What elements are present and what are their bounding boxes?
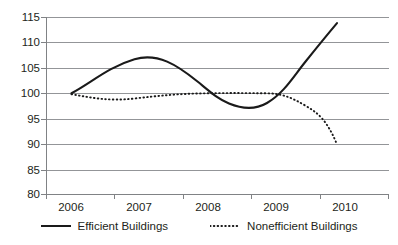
y-tick-label: 100 — [4, 88, 40, 100]
x-tick-label: 2007 — [109, 201, 169, 213]
legend-label: Nonefficient Buildings — [247, 220, 357, 232]
y-tick-label: 85 — [4, 165, 40, 177]
y-tick-label: 105 — [4, 63, 40, 75]
legend-label: Efficient Buildings — [78, 220, 169, 232]
series-layer — [46, 17, 389, 195]
x-tick-mark — [251, 195, 252, 199]
legend-line-solid-icon — [41, 221, 71, 231]
series-efficient-buildings — [72, 23, 338, 108]
series-nonefficient-buildings — [72, 93, 338, 144]
y-tick-label: 110 — [4, 37, 40, 49]
y-tick-label: 115 — [4, 12, 40, 24]
line-chart: 115 110 105 100 95 90 85 80 — [0, 0, 398, 245]
x-tick-label: 2008 — [178, 201, 238, 213]
x-tick-label: 2009 — [246, 201, 306, 213]
x-tick-mark — [114, 195, 115, 199]
x-tick-mark — [46, 195, 47, 199]
y-tick-label: 90 — [4, 139, 40, 151]
legend-line-dotted-icon — [210, 221, 240, 231]
legend-entry-efficient-buildings: Efficient Buildings — [41, 220, 169, 232]
x-tick-label: 2010 — [315, 201, 375, 213]
chart-legend: Efficient Buildings Nonefficient Buildin… — [0, 220, 398, 232]
y-tick-label: 80 — [4, 189, 40, 201]
x-tick-label: 2006 — [41, 201, 101, 213]
x-tick-mark — [183, 195, 184, 199]
y-tick-label: 95 — [4, 114, 40, 126]
x-tick-mark — [388, 195, 389, 199]
x-tick-mark — [320, 195, 321, 199]
legend-entry-nonefficient-buildings: Nonefficient Buildings — [210, 220, 357, 232]
